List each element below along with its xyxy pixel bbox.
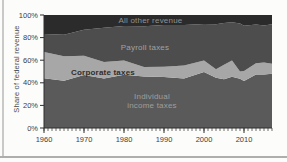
y-tick-label: 20% [23, 101, 38, 110]
x-tick-label: 1960 [36, 135, 53, 144]
x-tick-label: 1970 [76, 135, 93, 144]
scanned-page: 0%20%40%60%80%100%1960197019801990200020… [0, 0, 287, 162]
x-tick-label: 2000 [196, 135, 213, 144]
x-tick-label: 1980 [116, 135, 133, 144]
y-tick-label: 0% [27, 124, 38, 133]
y-tick-label: 100% [19, 11, 39, 20]
x-tick-label: 1990 [156, 135, 173, 144]
y-tick-label: 40% [23, 78, 38, 87]
area-individual-income-taxes [44, 72, 272, 128]
stacked-area-chart: 0%20%40%60%80%100%1960197019801990200020… [0, 0, 287, 162]
y-tick-label: 60% [23, 56, 38, 65]
y-tick-label: 80% [23, 33, 38, 42]
x-tick-label: 2010 [236, 135, 253, 144]
